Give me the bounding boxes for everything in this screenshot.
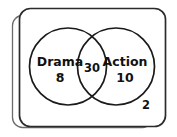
intersection-count: 30 (84, 61, 100, 75)
set-label-action: Action (103, 54, 148, 69)
venn-diagram-canvas: Drama 8 30 Action 10 2 (0, 0, 177, 137)
universe-outside-count: 2 (142, 98, 150, 112)
set-count-action: 10 (116, 70, 134, 85)
set-count-drama: 8 (56, 70, 65, 85)
venn-diagram: Drama 8 30 Action 10 2 (0, 0, 177, 137)
set-label-drama: Drama (37, 54, 83, 69)
